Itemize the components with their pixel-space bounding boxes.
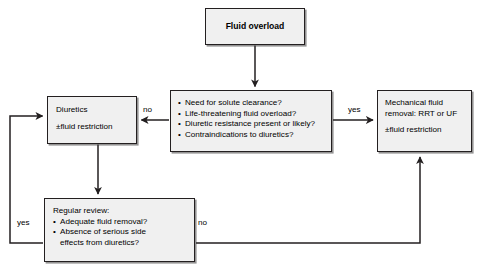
decision-bullet-3: Diuretic resistance present or likely? <box>178 119 325 130</box>
review-bullet-2-line-1: Absence of serious side <box>60 227 146 236</box>
decision-bullet-4: Contraindications to diuretics? <box>178 130 325 141</box>
edge-review-to-mechanical-no <box>196 157 420 243</box>
node-mechanical-body: Mechanical fluid removal: RRT or UF ±flu… <box>378 91 471 142</box>
node-diuretics-line-1: Diuretics <box>56 105 129 116</box>
node-mechanical-line-1: Mechanical fluid <box>385 98 465 109</box>
review-bullet-2: Absence of serious side <box>53 227 188 238</box>
flowchart-canvas: Fluid overload Need for solute clearance… <box>0 0 487 274</box>
node-diuretics-line-2: ±fluid restriction <box>56 122 129 133</box>
decision-bullet-list: Need for solute clearance? Life-threaten… <box>178 98 325 140</box>
edge-label-decision-to-diuretics: no <box>143 105 152 114</box>
decision-bullet-2: Life-threatening fluid overload? <box>178 109 325 120</box>
edge-label-review-to-diuretics: yes <box>17 218 30 227</box>
node-fluid-overload-body: Fluid overload <box>206 9 304 44</box>
edge-label-decision-to-mechanical: yes <box>348 105 361 114</box>
node-mechanical-line-2: removal: RRT or UF <box>385 109 465 120</box>
node-review-heading: Regular review: <box>53 206 188 217</box>
node-regular-review: Regular review: Adequate fluid removal? … <box>44 198 195 262</box>
edge-label-review-to-mechanical: no <box>198 218 207 227</box>
decision-bullet-1: Need for solute clearance? <box>178 98 325 109</box>
node-review-body: Regular review: Adequate fluid removal? … <box>45 199 194 254</box>
review-bullet-1: Adequate fluid removal? <box>53 217 188 228</box>
node-mechanical-fluid-removal: Mechanical fluid removal: RRT or UF ±flu… <box>377 90 472 152</box>
node-decision-body: Need for solute clearance? Life-threaten… <box>171 91 331 146</box>
node-diuretics: Diuretics ±fluid restriction <box>47 96 137 144</box>
review-bullet-2-line-2: effects from diuretics? <box>53 238 188 249</box>
node-mechanical-line-3: ±fluid restriction <box>385 125 465 136</box>
node-fluid-overload: Fluid overload <box>205 8 305 45</box>
node-decision-criteria: Need for solute clearance? Life-threaten… <box>170 90 332 152</box>
node-fluid-overload-label: Fluid overload <box>226 21 285 32</box>
review-bullet-list: Adequate fluid removal? Absence of serio… <box>53 217 188 238</box>
node-diuretics-body: Diuretics ±fluid restriction <box>48 97 136 139</box>
